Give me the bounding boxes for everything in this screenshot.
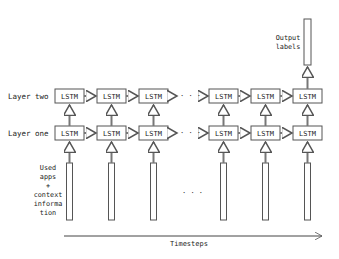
input-label-line: + (46, 182, 50, 190)
input-label: Used apps + context informa tion (34, 164, 63, 217)
connections (67, 96, 311, 220)
lstm-cell-label: LSTM (215, 130, 232, 138)
layer-two-label: Layer two (8, 92, 49, 101)
ellipsis-inputs: · · · (182, 189, 203, 197)
lstm-cell-layer-two: LSTM (251, 89, 280, 103)
input-label-line: Used (40, 164, 56, 172)
lstm-cell-layer-one: LSTM (209, 126, 238, 140)
lstm-cell-layer-two: LSTM (293, 89, 322, 103)
lstm-cell-label: LSTM (103, 93, 120, 101)
output-label-line: labels (276, 43, 301, 51)
input-bar (151, 163, 157, 220)
lstm-cell-layer-two: LSTM (55, 89, 84, 103)
ellipsis-layer-two: · · · (180, 92, 201, 100)
output-label: Output labels (276, 34, 301, 51)
lstm-cell-label: LSTM (215, 93, 232, 101)
input-bar (109, 163, 115, 220)
lstm-cell-layer-one: LSTM (293, 126, 322, 140)
lstm-cell-label: LSTM (299, 93, 316, 101)
output-label-line: Output (276, 34, 301, 42)
input-bar (221, 163, 227, 220)
lstm-cell-label: LSTM (145, 130, 162, 138)
lstm-cell-label: LSTM (103, 130, 120, 138)
input-label-line: apps (40, 173, 56, 181)
lstm-cell-layer-one: LSTM (55, 126, 84, 140)
input-label-line: informa (34, 200, 63, 208)
lstm-cell-layer-two: LSTM (209, 89, 238, 103)
input-bar (67, 163, 73, 220)
lstm-cell-label: LSTM (257, 130, 274, 138)
lstm-cell-label: LSTM (299, 130, 316, 138)
input-label-line: tion (40, 209, 56, 217)
lstm-cell-layer-two: LSTM (97, 89, 126, 103)
lstm-cell-layer-one: LSTM (251, 126, 280, 140)
lstm-cell-layer-one: LSTM (139, 126, 168, 140)
lstm-cell-layer-two: LSTM (139, 89, 168, 103)
layer-one-label: Layer one (8, 129, 49, 138)
lstm-cell-label: LSTM (61, 130, 78, 138)
ellipsis-layer-one: · · · (180, 129, 201, 137)
lstm-cell-label: LSTM (257, 93, 274, 101)
lstm-cell-label: LSTM (61, 93, 78, 101)
input-label-line: context (34, 191, 63, 199)
timestep-axis-label: Timesteps (170, 240, 208, 248)
output-bar (304, 19, 311, 65)
lstm-cell-layer-one: LSTM (97, 126, 126, 140)
input-bar (263, 163, 269, 220)
lstm-cell-label: LSTM (145, 93, 162, 101)
input-bar (305, 163, 311, 220)
lstm-diagram: Layer two Layer one LSTMLSTMLSTMLSTMLSTM… (0, 0, 339, 259)
